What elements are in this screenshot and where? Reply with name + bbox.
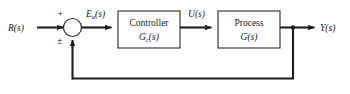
- signal-input-arg: (s): [14, 23, 24, 34]
- summing-junction: [64, 19, 82, 37]
- signal-label-output: Y(s): [320, 23, 335, 34]
- process-block-title: Process: [234, 18, 263, 28]
- process-block[interactable]: [218, 11, 280, 48]
- signal-label-input: R(s): [7, 23, 24, 34]
- summing-junction-positive-sign: +: [58, 8, 64, 19]
- controller-transfer-function: Gc(s): [139, 32, 159, 43]
- controller-block[interactable]: [118, 11, 180, 48]
- signal-error-arg: (s): [95, 9, 105, 20]
- process-transfer-function: G(s): [241, 32, 258, 43]
- controller-block-title: Controller: [129, 18, 169, 28]
- signal-output-arg: (s): [325, 23, 335, 34]
- summing-junction-feedback-sign: ±: [57, 35, 63, 46]
- block-diagram-canvas: + ± Controller Gc(s) Process G(s) R(s) E…: [0, 0, 350, 94]
- output-takeoff-node: [291, 25, 295, 29]
- signal-label-control: U(s): [188, 9, 205, 20]
- signal-label-error: Ea(s): [85, 9, 105, 20]
- controller-transfer-arg: (s): [149, 32, 159, 43]
- process-transfer-arg: (s): [247, 32, 257, 43]
- signal-control-arg: (s): [195, 9, 205, 20]
- block-diagram: + ± Controller Gc(s) Process G(s) R(s) E…: [0, 0, 350, 94]
